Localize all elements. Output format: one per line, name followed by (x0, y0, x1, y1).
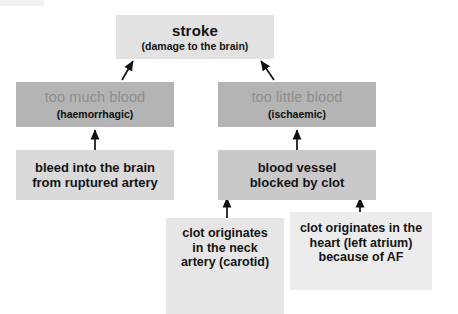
node-carotid-line3: artery (carotid) (181, 255, 269, 270)
node-ischaemic: too little blood (ischaemic) (218, 82, 376, 127)
node-blocked-line2: blocked by clot (250, 175, 345, 190)
stroke-flowchart-diagram: stroke (damage to the brain) too much bl… (0, 0, 458, 314)
node-heart-line2: heart (left atrium) (310, 236, 413, 251)
node-stroke: stroke (damage to the brain) (116, 15, 274, 59)
node-carotid: clot originates in the neck artery (caro… (166, 218, 284, 314)
node-haemorrhagic-main: too much blood (45, 89, 146, 106)
node-haemorrhagic: too much blood (haemorrhagic) (16, 82, 174, 127)
node-blocked-line1: blood vessel (258, 160, 337, 175)
node-bleed-line2: from ruptured artery (32, 175, 158, 190)
node-heart-line1: clot originates in the (300, 221, 422, 236)
node-carotid-line1: clot originates (182, 226, 267, 241)
node-heart-line3: because of AF (319, 250, 404, 265)
arrow-haemorrhagic-to-stroke (122, 61, 133, 80)
node-stroke-subtitle: (damage to the brain) (142, 40, 249, 52)
node-carotid-line2: in the neck (192, 241, 257, 256)
arrow-ischaemic-to-stroke (261, 61, 274, 80)
node-bleed-line1: bleed into the brain (35, 160, 155, 175)
node-stroke-title: stroke (172, 22, 218, 39)
node-heart: clot originates in the heart (left atriu… (290, 212, 432, 290)
node-blocked: blood vessel blocked by clot (218, 150, 376, 200)
node-ischaemic-sub: (ischaemic) (268, 108, 326, 120)
node-haemorrhagic-sub: (haemorrhagic) (57, 108, 133, 120)
page-edge-artifact (0, 0, 44, 6)
node-bleed: bleed into the brain from ruptured arter… (16, 150, 174, 200)
node-ischaemic-main: too little blood (251, 89, 342, 106)
